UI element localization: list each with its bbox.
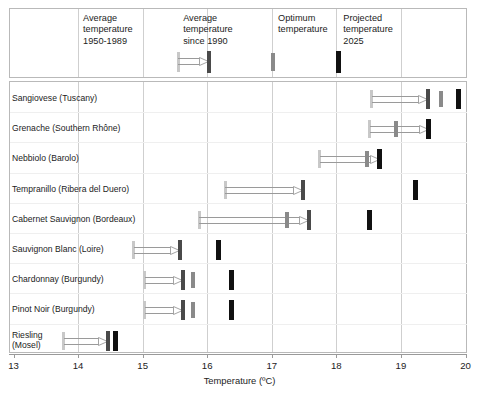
change-arrow — [178, 56, 209, 67]
proj-marker — [229, 300, 234, 320]
row-label: Grenache (Southern Rhône) — [12, 123, 162, 133]
row-label: Cabernet Sauvignon (Bordeaux) — [12, 214, 162, 224]
change-arrow — [64, 336, 108, 347]
recent-marker — [207, 51, 211, 73]
arrow-shaft — [225, 187, 293, 188]
recent-marker — [181, 270, 185, 290]
arrow-shaft — [134, 253, 171, 254]
row-label: Chardonnay (Burgundy) — [12, 274, 162, 284]
arrow-shaft — [134, 247, 171, 248]
optimum-marker — [191, 302, 195, 318]
tick-mark — [336, 354, 337, 358]
tick-mark — [466, 354, 467, 358]
plot-gridline — [336, 82, 337, 352]
row-separator — [10, 324, 467, 325]
wine-temperature-chart: Average temperature 1950-1989Average tem… — [0, 0, 479, 393]
arrow-shaft — [145, 283, 175, 284]
row-separator — [10, 263, 467, 264]
arrow-shaft — [145, 277, 175, 278]
optimum-marker — [271, 53, 275, 71]
tick-label: 17 — [266, 360, 277, 371]
optimum-marker — [439, 91, 443, 107]
arrow-shaft — [320, 162, 371, 163]
change-arrow — [372, 94, 428, 105]
tick-label: 14 — [73, 360, 84, 371]
arrow-shaft — [64, 338, 99, 339]
recent-marker — [181, 300, 185, 320]
tick-label: 18 — [331, 360, 342, 371]
proj-marker — [426, 119, 431, 139]
arrow-shaft — [178, 64, 200, 65]
arrow-shaft — [372, 96, 419, 97]
row-separator — [10, 203, 467, 204]
tick-label: 16 — [202, 360, 213, 371]
row-separator — [10, 142, 467, 143]
proj-marker — [456, 89, 461, 109]
proj-marker — [113, 331, 118, 351]
proj-marker — [413, 180, 418, 200]
change-arrow — [320, 154, 380, 165]
row-separator — [10, 112, 467, 113]
arrow-shaft — [320, 156, 371, 157]
tick-mark — [143, 354, 144, 358]
proj-marker — [229, 270, 234, 290]
proj-marker — [367, 210, 372, 230]
arrow-shaft — [145, 307, 175, 308]
change-arrow — [370, 124, 429, 135]
tick-mark — [78, 354, 79, 358]
axis-title: Temperature (ºC) — [0, 375, 479, 386]
optimum-marker — [191, 272, 195, 288]
change-arrow — [145, 305, 184, 316]
tick-label: 19 — [396, 360, 407, 371]
row-label: Sangiovese (Tuscany) — [12, 93, 162, 103]
tick-mark — [14, 354, 15, 358]
change-arrow — [145, 275, 184, 286]
row-separator — [10, 173, 467, 174]
tick-label: 20 — [460, 360, 471, 371]
change-arrow — [199, 215, 308, 226]
recent-marker — [301, 180, 305, 200]
optimum-marker — [365, 151, 369, 167]
recent-marker — [106, 331, 110, 351]
x-axis: 1314151617181920 Temperature (ºC) — [0, 353, 479, 393]
arrow-shaft — [225, 193, 293, 194]
arrow-shaft — [372, 102, 419, 103]
recent-marker — [178, 240, 182, 260]
change-arrow — [134, 245, 180, 256]
arrow-shaft — [145, 313, 175, 314]
row-separator — [10, 233, 467, 234]
tick-mark — [401, 354, 402, 358]
change-arrow — [225, 185, 302, 196]
row-label: Nebbiolo (Barolo) — [12, 153, 162, 163]
optimum-marker — [285, 212, 289, 228]
recent-marker — [426, 89, 430, 109]
legend-item-recent: Average temperature since 1990 — [183, 13, 261, 47]
row-label: Pinot Noir (Burgundy) — [12, 304, 162, 314]
legend-gridline — [78, 9, 79, 77]
legend-item-proj: Projected temperature 2025 — [343, 13, 421, 47]
proj-marker — [216, 240, 221, 260]
tick-mark — [272, 354, 273, 358]
arrow-shaft — [64, 344, 99, 345]
proj-marker — [377, 149, 382, 169]
legend-item-past: Average temperature 1950-1989 — [83, 13, 161, 47]
arrow-shaft — [178, 58, 200, 59]
row-separator — [10, 293, 467, 294]
tick-label: 15 — [137, 360, 148, 371]
tick-mark — [207, 354, 208, 358]
recent-marker — [307, 210, 311, 230]
proj-marker — [336, 51, 341, 73]
tick-label: 13 — [8, 360, 19, 371]
optimum-marker — [394, 121, 398, 137]
plot-gridline — [401, 82, 402, 352]
row-label: Tempranillo (Ribera del Duero) — [12, 184, 162, 194]
